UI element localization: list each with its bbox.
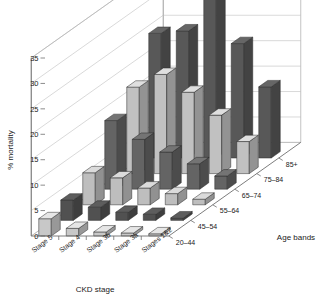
bar-front-face: [138, 188, 151, 205]
bar-stage-3a-65-74: [187, 157, 209, 189]
bar-side-face: [95, 166, 104, 204]
bar-stages-1-2-85+: [259, 80, 281, 158]
bar-front-face: [61, 200, 74, 220]
z-tick-0: [169, 236, 173, 238]
z-band-label-1: 45–54: [198, 223, 218, 230]
bar-stage-3a-75-84: [209, 109, 231, 174]
bar-stage-4-65-74: [132, 133, 154, 189]
bar-stage-5-45-54: [61, 194, 83, 221]
bar-front-face: [160, 152, 173, 189]
x-axis-title: CKD stage: [76, 285, 115, 294]
bar-stage-3a-55-64: [165, 187, 187, 205]
bar-front-face: [132, 139, 145, 189]
z-band-label-2: 55–64: [220, 207, 240, 214]
y-tick-label-0: 0: [34, 232, 38, 241]
y-tick-label-20: 20: [30, 130, 38, 139]
y-tick-label-35: 35: [30, 54, 38, 63]
bar-side-face: [271, 80, 280, 158]
z-tick-5: [279, 158, 283, 160]
y-tick-label-5: 5: [34, 206, 38, 215]
bar-front-face: [209, 115, 222, 173]
bar-stage-4-55-64: [110, 171, 132, 204]
z-band-label-3: 65–74: [242, 192, 262, 199]
bar-stage-3a-45-54: [143, 208, 165, 221]
y-tick-label-15: 15: [30, 155, 38, 164]
bar-stages-1-2-55-64: [193, 193, 215, 205]
bar-front-face: [143, 214, 156, 220]
y-tick-label-25: 25: [30, 105, 38, 114]
z-band-label-4: 75–84: [264, 176, 284, 183]
bar-chart-3d: 05101520253035Stage 5Stage 4Stage 3bStag…: [0, 0, 335, 303]
z-tick-1: [191, 220, 195, 222]
bar-front-face: [39, 219, 52, 236]
bar-side-face: [222, 109, 231, 174]
bar-stage-5-55-64: [83, 166, 105, 204]
x-category-label-1: Stage 4: [58, 233, 82, 254]
bar-front-face: [171, 218, 184, 221]
bar-stage-5-20-44: [39, 212, 61, 236]
bar-stages-1-2-45-54: [171, 211, 193, 220]
bar-front-face: [237, 142, 250, 174]
z-tick-4: [257, 174, 261, 176]
bar-front-face: [83, 173, 96, 205]
bar-side-face: [172, 146, 181, 190]
z-axis-title: Age bands: [277, 233, 315, 242]
z-tick-2: [213, 205, 217, 207]
z-band-label-0: 20–44: [176, 239, 196, 246]
y-tick-label-30: 30: [30, 79, 38, 88]
bar-front-face: [215, 176, 228, 189]
bar-front-face: [110, 178, 123, 205]
z-tick-3: [235, 189, 239, 191]
bar-front-face: [88, 207, 101, 220]
bar-front-face: [193, 199, 206, 205]
y-axis-title: % mortality: [6, 130, 15, 170]
chart-container: 05101520253035Stage 5Stage 4Stage 3bStag…: [0, 0, 335, 303]
bar-front-face: [187, 164, 200, 189]
bar-front-face: [259, 87, 272, 158]
bar-side-face: [249, 135, 258, 173]
bar-stage-3b-45-54: [116, 206, 138, 221]
bar-front-face: [116, 212, 129, 220]
y-tick-label-10: 10: [30, 181, 38, 190]
bar-side-face: [145, 133, 154, 189]
bar-front-face: [165, 194, 178, 205]
bar-stage-3b-65-74: [160, 146, 182, 190]
bar-stages-1-2-75-84: [237, 135, 259, 173]
z-band-label-5: 85+: [286, 161, 298, 168]
chart-bars: [39, 0, 281, 236]
